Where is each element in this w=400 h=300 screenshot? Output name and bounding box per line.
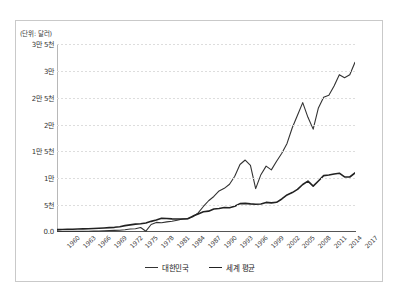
x-axis-tick-label: 1993 xyxy=(238,234,254,250)
line-chart-svg xyxy=(57,44,355,232)
gridline xyxy=(57,151,356,152)
gridline xyxy=(57,205,356,206)
legend-item[interactable]: 대한민국 xyxy=(145,262,189,273)
y-axis-tick-label: 3만 5천 xyxy=(32,39,54,49)
gridline xyxy=(57,178,356,179)
x-axis-tick-label: 1978 xyxy=(159,234,175,250)
legend-label: 세계 평균 xyxy=(226,262,255,273)
chart-figure: (단위: 달러) 0.05천1만1만 5천2만2만 5천3만3만 5천 1960… xyxy=(0,0,400,300)
x-axis-tick-label: 1972 xyxy=(128,234,144,250)
legend-swatch-icon xyxy=(209,267,222,268)
y-axis-tick-label: 2만 xyxy=(44,120,54,130)
gridline xyxy=(57,98,356,99)
x-axis-tick-label: 1966 xyxy=(97,234,113,250)
legend-swatch-icon xyxy=(145,267,158,268)
y-axis-tick-label: 1만 xyxy=(44,173,54,183)
y-axis-tick-label: 1만 5천 xyxy=(32,146,54,156)
x-axis-tick-label: 1981 xyxy=(175,234,191,250)
series-line xyxy=(57,173,355,230)
chart-legend: 대한민국세계 평균 xyxy=(0,262,400,273)
gridline xyxy=(57,71,356,72)
x-axis-tick-label: 1999 xyxy=(269,234,285,250)
y-axis-tick-label: 0.0 xyxy=(43,228,54,236)
x-axis-ticks: 1960196319661969197219751978198119841987… xyxy=(57,234,356,264)
x-axis-tick-label: 1990 xyxy=(222,234,238,250)
plot-area xyxy=(57,44,355,232)
x-axis-tick-label: 2002 xyxy=(285,234,301,250)
legend-item[interactable]: 세계 평균 xyxy=(209,262,255,273)
x-axis-tick-label: 2005 xyxy=(301,234,317,250)
x-axis-tick-label: 1975 xyxy=(144,234,160,250)
y-axis-tick-label: 5천 xyxy=(44,200,54,210)
x-axis-tick-label: 1987 xyxy=(207,234,223,250)
y-axis-tick-label: 2만 5천 xyxy=(32,93,54,103)
x-axis-tick-label: 1984 xyxy=(191,234,207,250)
gridline xyxy=(57,44,356,45)
x-axis-tick-label: 2011 xyxy=(332,234,348,250)
y-axis-tick-label: 3만 xyxy=(44,66,54,76)
unit-label: (단위: 달러) xyxy=(20,28,52,38)
x-axis-tick-label: 1996 xyxy=(254,234,270,250)
legend-label: 대한민국 xyxy=(162,262,189,273)
x-axis-tick-label: 1969 xyxy=(112,234,128,250)
x-axis-tick-label: 1963 xyxy=(81,234,97,250)
gridline xyxy=(57,125,356,126)
x-axis-tick-label: 2008 xyxy=(316,234,332,250)
y-axis-ticks: 0.05천1만1만 5천2만2만 5천3만3만 5천 xyxy=(0,44,54,232)
x-axis-tick-label: 1960 xyxy=(65,234,81,250)
